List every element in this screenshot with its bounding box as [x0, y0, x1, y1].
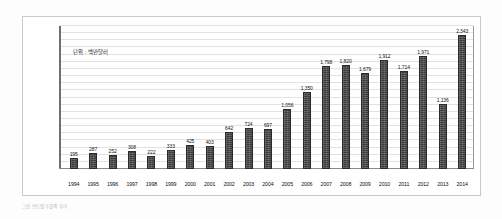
bar-slot: 642 [219, 26, 238, 169]
chart-figure: 단위 : 백만달러 195287252308222333425403642724… [22, 16, 481, 196]
bar-slot: 333 [161, 26, 180, 169]
bar-slot: 1,056 [278, 26, 297, 169]
bar-value-label: 403 [206, 140, 214, 145]
unit-annotation: 단위 : 백만달러 [73, 48, 108, 56]
bar[interactable] [147, 156, 155, 169]
bar-value-label: 333 [167, 144, 175, 149]
bar-value-label: 252 [109, 149, 117, 154]
x-axis-label: 2007 [316, 177, 335, 191]
x-axis-label: 1994 [64, 177, 83, 191]
bar[interactable] [186, 145, 194, 169]
bar-slot: 697 [258, 26, 277, 169]
bar[interactable] [128, 151, 136, 169]
x-axis-labels: 1994199519961997199819992000200120022003… [61, 177, 474, 191]
bar-value-label: 222 [147, 150, 155, 155]
x-axis-label: 2010 [375, 177, 394, 191]
x-axis-label: 2001 [200, 177, 219, 191]
bar-series: 1952872523082223334254036427246971,0561,… [61, 26, 474, 169]
bar[interactable] [70, 158, 78, 169]
bar-value-label: 724 [244, 122, 252, 127]
bar-slot: 1,136 [433, 26, 452, 169]
bar[interactable] [264, 129, 272, 169]
bar[interactable] [322, 66, 330, 169]
figure-caption: 그림 연도별 수출액 추이 [22, 203, 322, 209]
bar-value-label: 1,136 [437, 98, 449, 103]
bar-slot: 308 [122, 26, 141, 169]
bar[interactable] [303, 92, 311, 169]
x-axis-label: 2000 [181, 177, 200, 191]
x-axis-label: 2002 [219, 177, 238, 191]
bar[interactable] [206, 146, 214, 169]
bar-slot: 1,350 [297, 26, 316, 169]
x-axis-label: 1997 [122, 177, 141, 191]
document-page: 단위 : 백만달러 195287252308222333425403642724… [0, 0, 502, 219]
bar-value-label: 308 [128, 145, 136, 150]
x-axis-label: 2006 [297, 177, 316, 191]
bar-value-label: 1,820 [340, 59, 352, 64]
bar-value-label: 195 [70, 152, 78, 157]
bar-slot: 1,912 [375, 26, 394, 169]
x-axis-label: 1996 [103, 177, 122, 191]
bar-slot: 1,820 [336, 26, 355, 169]
bar[interactable] [225, 132, 233, 169]
bar-value-label: 1,679 [359, 67, 371, 72]
x-axis-label: 2011 [394, 177, 413, 191]
x-axis-label: 2014 [452, 177, 471, 191]
bar-value-label: 697 [264, 123, 272, 128]
bar-value-label: 642 [225, 126, 233, 131]
bar[interactable] [400, 71, 408, 169]
bar-slot: 1,679 [355, 26, 374, 169]
x-axis-label: 1995 [83, 177, 102, 191]
bar[interactable] [439, 104, 447, 169]
bar-slot: 403 [200, 26, 219, 169]
x-axis-label: 2013 [433, 177, 452, 191]
bar-value-label: 287 [89, 147, 97, 152]
bar-value-label: 1,971 [417, 50, 429, 55]
bar[interactable] [283, 109, 291, 169]
x-axis-label: 2005 [278, 177, 297, 191]
bar-value-label: 1,056 [281, 103, 293, 108]
plot-area: 단위 : 백만달러 195287252308222333425403642724… [59, 26, 474, 169]
bar-slot: 425 [181, 26, 200, 169]
bar[interactable] [419, 56, 427, 169]
x-axis-label: 2008 [336, 177, 355, 191]
x-axis-label: 1998 [142, 177, 161, 191]
x-axis-label: 2012 [414, 177, 433, 191]
bar-value-label: 1,350 [301, 86, 313, 91]
x-axis-label: 2009 [355, 177, 374, 191]
bar-slot: 2,343 [452, 26, 471, 169]
bar-value-label: 425 [186, 139, 194, 144]
bar-slot: 1,714 [394, 26, 413, 169]
bar-value-label: 1,798 [320, 60, 332, 65]
x-axis-label: 2004 [258, 177, 277, 191]
x-axis-label: 1999 [161, 177, 180, 191]
bar-value-label: 2,343 [456, 29, 468, 34]
bar[interactable] [109, 155, 117, 169]
bar-slot: 1,798 [316, 26, 335, 169]
bar[interactable] [380, 60, 388, 169]
bar-slot: 724 [239, 26, 258, 169]
x-axis-label: 2003 [239, 177, 258, 191]
bar[interactable] [458, 35, 466, 169]
bar[interactable] [89, 153, 97, 169]
bar-slot: 222 [142, 26, 161, 169]
bar[interactable] [361, 73, 369, 169]
bar-value-label: 1,714 [398, 65, 410, 70]
bar-value-label: 1,912 [378, 54, 390, 59]
bar[interactable] [245, 128, 253, 169]
bar[interactable] [342, 65, 350, 169]
bar-slot: 1,971 [414, 26, 433, 169]
bar[interactable] [167, 150, 175, 169]
